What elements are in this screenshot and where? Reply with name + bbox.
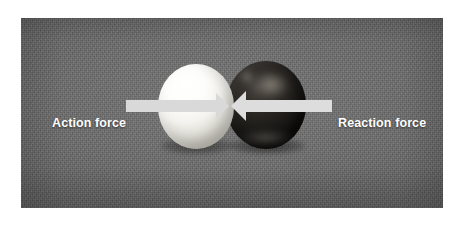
reaction-force-label: Reaction force xyxy=(338,117,426,130)
photograph: Action force Reaction force xyxy=(21,18,443,208)
physics-figure: Action force Reaction force xyxy=(0,0,464,226)
white-ball xyxy=(158,64,234,149)
action-force-label: Action force xyxy=(52,117,126,130)
dark-ball xyxy=(226,61,306,149)
